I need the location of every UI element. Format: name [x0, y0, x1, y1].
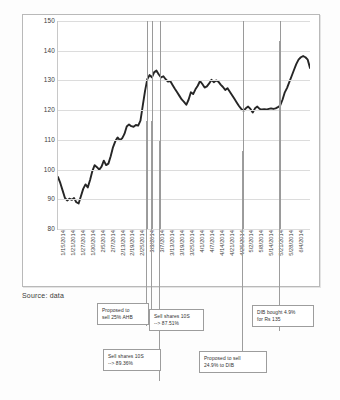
- event-marker-line: [152, 21, 153, 229]
- figure-page: 8090100110120130140150 1/15/20141/21/201…: [0, 0, 340, 400]
- annotation-proposed-ahb: Proposed to sell 25% AHB: [97, 303, 149, 325]
- y-tick-label: 100: [44, 166, 55, 172]
- annotation-line-1: Sell shares 10S: [108, 353, 156, 360]
- x-tick-label: 4/14/2014: [220, 230, 226, 256]
- event-marker-line: [147, 21, 148, 229]
- annotation-dib-bought: DIB bought 4.9% for Rs 135: [252, 305, 314, 327]
- x-tick-label: 3/7/2014: [160, 230, 166, 253]
- annotation-proposed-dib: Proposed to sell 24.9% to DIB: [199, 351, 267, 373]
- y-tick-label: 150: [44, 18, 55, 24]
- plot-area: [57, 21, 310, 230]
- gridline: [58, 170, 310, 171]
- x-tick-label: 1/21/2014: [71, 230, 77, 256]
- y-tick-label: 130: [44, 77, 55, 83]
- annotation-line-1: Sell shares 10S: [154, 313, 199, 320]
- annotation-line-2: sell 25% AHB: [102, 314, 144, 321]
- gridline: [58, 110, 310, 111]
- gridline: [58, 21, 310, 22]
- x-tick-label: 4/21/2014: [230, 230, 236, 256]
- y-tick-label: 80: [47, 226, 55, 232]
- annotation-line-2: 24.9% to DIB: [204, 362, 262, 369]
- event-marker-line: [160, 21, 161, 229]
- leader-line-proposed-dib: [242, 151, 243, 371]
- event-marker-line: [280, 21, 281, 229]
- y-axis: 8090100110120130140150: [31, 21, 55, 229]
- leader-line-proposed-ahb: [146, 121, 147, 326]
- y-tick-label: 120: [44, 107, 55, 113]
- annotation-sell-8751: Sell shares 10S --> 87.51%: [149, 309, 204, 331]
- annotation-line-1: DIB bought 4.9%: [257, 309, 309, 316]
- x-tick-label: 4/1/2014: [200, 230, 206, 253]
- source-caption: Source: data: [22, 292, 64, 299]
- leader-line-sell-8936: [159, 141, 160, 381]
- x-tick-label: 4/7/2014: [210, 230, 216, 253]
- x-tick-label: 2/13/2014: [121, 230, 127, 256]
- gridline: [58, 199, 310, 200]
- gridline: [58, 140, 310, 141]
- x-tick-label: 5/2/2014: [249, 230, 255, 253]
- x-tick-label: 3/25/2014: [190, 230, 196, 256]
- x-tick-label: 2/5/2014: [101, 230, 107, 253]
- x-tick-label: 2/19/2014: [130, 230, 136, 256]
- y-tick-label: 110: [44, 137, 55, 143]
- x-tick-label: 3/19/2014: [180, 230, 186, 256]
- x-tick-label: 5/28/2014: [289, 230, 295, 256]
- event-marker-line: [243, 21, 244, 229]
- chart-frame: 8090100110120130140150 1/15/20141/21/201…: [22, 14, 320, 287]
- leader-line-dib-bought: [279, 41, 280, 331]
- price-line-series: [58, 21, 310, 229]
- annotation-line-1: Proposed to: [102, 307, 144, 314]
- annotation-line-1: Proposed to sell: [204, 355, 262, 362]
- x-tick-label: 6/4/2014: [299, 230, 305, 253]
- annotation-line-2: --> 89.36%: [108, 360, 156, 367]
- x-tick-label: 2/7/2014: [111, 230, 117, 253]
- x-tick-label: 1/15/2014: [61, 230, 67, 256]
- x-axis: 1/15/20141/21/20141/27/20141/30/20142/5/…: [57, 230, 309, 278]
- x-tick-label: 1/27/2014: [81, 230, 87, 256]
- gridline: [58, 51, 310, 52]
- annotation-sell-8936: Sell shares 10S --> 89.36%: [103, 349, 161, 371]
- plot-wrapper: 8090100110120130140150 1/15/20141/21/201…: [31, 21, 311, 279]
- y-tick-label: 90: [47, 196, 55, 202]
- x-tick-label: 1/30/2014: [91, 230, 97, 256]
- leader-line-sell-8751: [151, 121, 152, 311]
- x-tick-label: 3/13/2014: [170, 230, 176, 256]
- x-tick-label: 5/8/2014: [259, 230, 265, 253]
- gridline: [58, 80, 310, 81]
- annotation-line-2: for Rs 135: [257, 316, 309, 323]
- x-tick-label: 5/14/2014: [269, 230, 275, 256]
- annotation-line-2: --> 87.51%: [154, 320, 199, 327]
- y-tick-label: 140: [44, 48, 55, 54]
